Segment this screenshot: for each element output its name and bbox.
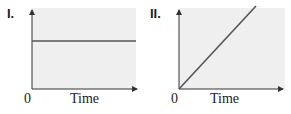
- panel-label-1: I.: [7, 6, 14, 21]
- plot-area-1: [32, 8, 136, 89]
- origin-label-1: 0: [24, 91, 31, 106]
- plot-area-2: [179, 8, 285, 89]
- chart-figure: I. 0 Time II. 0 Time: [0, 0, 291, 114]
- origin-label-2: 0: [171, 91, 178, 106]
- panel-2: II. 0 Time: [150, 6, 285, 106]
- x-axis-label-1: Time: [70, 91, 99, 106]
- x-axis-label-2: Time: [210, 91, 239, 106]
- panel-label-2: II.: [150, 6, 161, 21]
- panel-1: I. 0 Time: [7, 6, 137, 106]
